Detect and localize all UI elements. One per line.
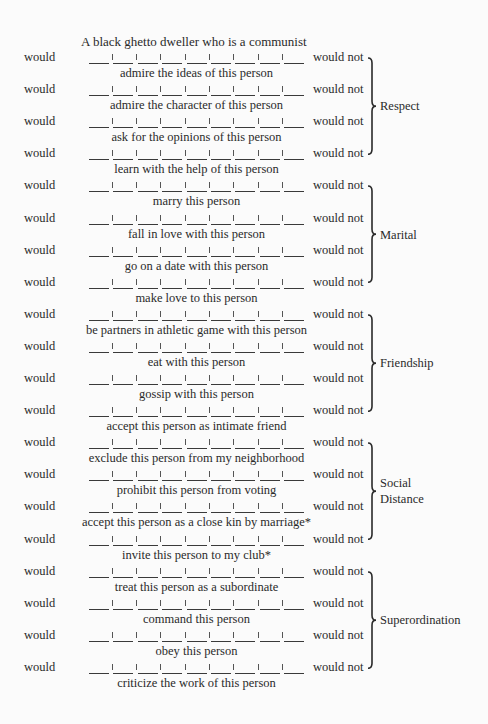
scale-point[interactable]	[89, 274, 109, 289]
rating-scale[interactable]	[89, 307, 304, 321]
scale-point[interactable]	[162, 531, 182, 546]
scale-point[interactable]	[113, 145, 133, 160]
scale-point[interactable]	[284, 498, 304, 513]
scale-point[interactable]	[284, 595, 304, 610]
rating-scale[interactable]	[89, 564, 304, 578]
scale-point[interactable]	[89, 498, 109, 513]
scale-point[interactable]	[211, 113, 231, 128]
scale-point[interactable]	[113, 563, 133, 578]
scale-point[interactable]	[89, 531, 109, 546]
scale-point[interactable]	[113, 113, 133, 128]
scale-point[interactable]	[138, 242, 158, 257]
scale-point[interactable]	[211, 595, 231, 610]
scale-point[interactable]	[284, 627, 304, 642]
scale-point[interactable]	[187, 370, 207, 385]
scale-point[interactable]	[89, 434, 109, 449]
scale-point[interactable]	[260, 466, 280, 481]
scale-point[interactable]	[113, 402, 133, 417]
scale-point[interactable]	[260, 498, 280, 513]
scale-point[interactable]	[113, 466, 133, 481]
scale-point[interactable]	[89, 113, 109, 128]
scale-point[interactable]	[260, 531, 280, 546]
scale-point[interactable]	[284, 81, 304, 96]
scale-point[interactable]	[284, 466, 304, 481]
rating-scale[interactable]	[89, 435, 304, 449]
rating-scale[interactable]	[89, 628, 304, 642]
scale-point[interactable]	[235, 49, 255, 64]
scale-point[interactable]	[284, 113, 304, 128]
scale-point[interactable]	[235, 145, 255, 160]
scale-point[interactable]	[138, 531, 158, 546]
scale-point[interactable]	[89, 402, 109, 417]
scale-point[interactable]	[113, 498, 133, 513]
scale-point[interactable]	[211, 274, 231, 289]
scale-point[interactable]	[284, 145, 304, 160]
scale-point[interactable]	[162, 81, 182, 96]
scale-point[interactable]	[235, 531, 255, 546]
scale-point[interactable]	[113, 338, 133, 353]
scale-point[interactable]	[89, 563, 109, 578]
rating-scale[interactable]	[89, 178, 304, 192]
scale-point[interactable]	[235, 370, 255, 385]
scale-point[interactable]	[89, 595, 109, 610]
scale-point[interactable]	[284, 402, 304, 417]
scale-point[interactable]	[187, 242, 207, 257]
scale-point[interactable]	[260, 113, 280, 128]
scale-point[interactable]	[187, 434, 207, 449]
scale-point[interactable]	[113, 210, 133, 225]
scale-point[interactable]	[260, 81, 280, 96]
scale-point[interactable]	[235, 434, 255, 449]
rating-scale[interactable]	[89, 211, 304, 225]
scale-point[interactable]	[260, 274, 280, 289]
scale-point[interactable]	[162, 242, 182, 257]
rating-scale[interactable]	[89, 114, 304, 128]
scale-point[interactable]	[211, 242, 231, 257]
rating-scale[interactable]	[89, 243, 304, 257]
scale-point[interactable]	[162, 177, 182, 192]
scale-point[interactable]	[162, 49, 182, 64]
scale-point[interactable]	[284, 531, 304, 546]
scale-point[interactable]	[187, 531, 207, 546]
scale-point[interactable]	[162, 434, 182, 449]
scale-point[interactable]	[113, 306, 133, 321]
scale-point[interactable]	[260, 402, 280, 417]
scale-point[interactable]	[113, 659, 133, 674]
rating-scale[interactable]	[89, 82, 304, 96]
scale-point[interactable]	[162, 274, 182, 289]
scale-point[interactable]	[260, 49, 280, 64]
scale-point[interactable]	[187, 306, 207, 321]
scale-point[interactable]	[162, 627, 182, 642]
scale-point[interactable]	[162, 498, 182, 513]
scale-point[interactable]	[113, 595, 133, 610]
scale-point[interactable]	[162, 466, 182, 481]
scale-point[interactable]	[162, 113, 182, 128]
scale-point[interactable]	[138, 370, 158, 385]
scale-point[interactable]	[211, 81, 231, 96]
scale-point[interactable]	[211, 370, 231, 385]
scale-point[interactable]	[284, 49, 304, 64]
scale-point[interactable]	[211, 306, 231, 321]
scale-point[interactable]	[187, 498, 207, 513]
scale-point[interactable]	[162, 338, 182, 353]
scale-point[interactable]	[211, 531, 231, 546]
scale-point[interactable]	[113, 49, 133, 64]
scale-point[interactable]	[260, 145, 280, 160]
scale-point[interactable]	[187, 659, 207, 674]
rating-scale[interactable]	[89, 275, 304, 289]
scale-point[interactable]	[187, 338, 207, 353]
scale-point[interactable]	[260, 242, 280, 257]
scale-point[interactable]	[138, 498, 158, 513]
scale-point[interactable]	[187, 177, 207, 192]
scale-point[interactable]	[235, 177, 255, 192]
rating-scale[interactable]	[89, 499, 304, 513]
scale-point[interactable]	[187, 466, 207, 481]
scale-point[interactable]	[138, 563, 158, 578]
scale-point[interactable]	[211, 338, 231, 353]
scale-point[interactable]	[113, 531, 133, 546]
scale-point[interactable]	[113, 274, 133, 289]
scale-point[interactable]	[89, 627, 109, 642]
scale-point[interactable]	[235, 627, 255, 642]
scale-point[interactable]	[138, 81, 158, 96]
scale-point[interactable]	[211, 49, 231, 64]
scale-point[interactable]	[235, 498, 255, 513]
